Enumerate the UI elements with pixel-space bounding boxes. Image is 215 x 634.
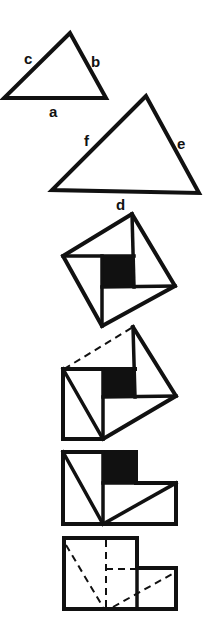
label-b: b — [91, 53, 100, 70]
label-e: e — [177, 135, 185, 152]
label-c: c — [24, 50, 32, 67]
center-square — [103, 369, 135, 397]
label-a: a — [49, 103, 58, 120]
tilted-square-panel — [63, 214, 175, 326]
center-square — [102, 257, 134, 287]
pythagorean-diagram: c b a f e d — [0, 0, 215, 634]
partially-unfolded-panel — [63, 327, 176, 439]
rearranged-panel — [63, 452, 176, 524]
small-triangle: c b a — [4, 33, 106, 120]
label-f: f — [84, 132, 90, 149]
label-d: d — [116, 196, 125, 213]
center-square — [103, 452, 136, 483]
two-squares-panel — [64, 538, 176, 609]
large-triangle: f e d — [52, 96, 199, 213]
